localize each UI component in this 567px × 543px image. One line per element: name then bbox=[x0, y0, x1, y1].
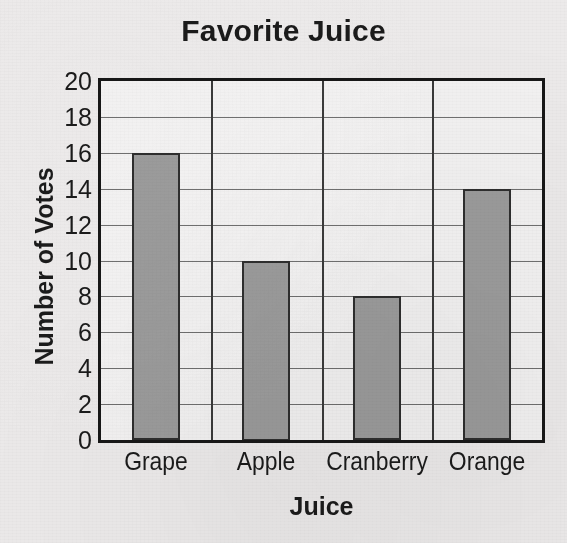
bar-orange bbox=[463, 189, 511, 440]
y-tick-label-2: 2 bbox=[34, 392, 92, 417]
y-tick-label-18: 18 bbox=[34, 104, 92, 129]
y-tick-label-14: 14 bbox=[34, 176, 92, 201]
gridline-vertical-3 bbox=[432, 81, 434, 440]
x-axis-tick-labels: GrapeAppleCranberryOrange bbox=[98, 448, 545, 488]
y-tick-label-16: 16 bbox=[34, 140, 92, 165]
y-tick-label-6: 6 bbox=[34, 320, 92, 345]
y-tick-label-4: 4 bbox=[34, 356, 92, 381]
plot-area bbox=[98, 78, 545, 443]
gridline-vertical-2 bbox=[322, 81, 324, 440]
bar-grape bbox=[132, 153, 180, 440]
x-tick-label-orange: Orange bbox=[416, 448, 557, 474]
y-tick-label-0: 0 bbox=[34, 428, 92, 453]
bar-apple bbox=[242, 261, 290, 440]
y-tick-label-8: 8 bbox=[34, 284, 92, 309]
y-tick-label-12: 12 bbox=[34, 212, 92, 237]
x-axis-title: Juice bbox=[98, 492, 545, 521]
plot-inner bbox=[101, 81, 542, 440]
y-tick-label-20: 20 bbox=[34, 69, 92, 94]
bar-chart-page: Favorite Juice Number of Votes 201816141… bbox=[0, 0, 567, 543]
gridline-vertical-1 bbox=[211, 81, 213, 440]
y-axis-tick-labels: 20181614121086420 bbox=[32, 0, 92, 543]
y-tick-label-10: 10 bbox=[34, 248, 92, 273]
bar-cranberry bbox=[353, 296, 401, 440]
